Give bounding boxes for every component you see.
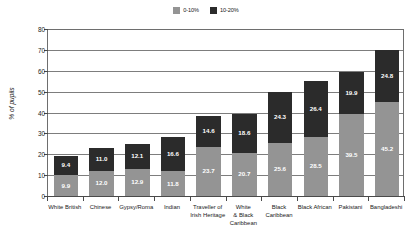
y-tick-label: 40 xyxy=(38,109,45,116)
bar-value-label: 20.7 xyxy=(238,171,250,177)
stacked-bar-chart: 0-10% 10-20% % of pupils 010203040506070… xyxy=(0,0,412,248)
bar-value-label: 23.7 xyxy=(203,168,215,174)
y-tick-label: 50 xyxy=(38,88,45,95)
bar-segment-high: 19.9 xyxy=(339,72,364,114)
y-tick-label: 10 xyxy=(38,172,45,179)
bar-value-label: 9.4 xyxy=(62,162,71,168)
bar-series-container: 9.99.412.011.012.912.111.816.623.714.620… xyxy=(48,29,403,196)
bar-value-label: 26.4 xyxy=(310,106,322,112)
chart-legend: 0-10% 10-20% xyxy=(0,7,412,14)
bar-group: 45.224.8 xyxy=(375,50,400,196)
bar-segment-low: 25.6 xyxy=(268,143,293,196)
bar-segment-low: 9.9 xyxy=(54,175,79,196)
bar-segment-high: 9.4 xyxy=(54,156,79,176)
bar-segment-high: 14.6 xyxy=(196,116,221,146)
bar-segment-high: 24.8 xyxy=(375,50,400,102)
bar-value-label: 11.8 xyxy=(167,181,179,187)
bar-value-label: 24.3 xyxy=(274,114,286,120)
y-tick-label: 80 xyxy=(38,26,45,33)
bar-group: 25.624.3 xyxy=(268,92,293,196)
y-tick-label: 20 xyxy=(38,151,45,158)
bar-value-label: 18.6 xyxy=(238,130,250,136)
legend-item-high: 10-20% xyxy=(210,7,239,14)
x-tick-mark xyxy=(261,196,262,201)
bar-segment-low: 12.0 xyxy=(89,171,114,196)
x-tick-mark xyxy=(47,196,48,201)
y-tick-label: 30 xyxy=(38,130,45,137)
bar-value-label: 25.6 xyxy=(274,166,286,172)
bar-value-label: 12.9 xyxy=(131,179,143,185)
bar-value-label: 16.6 xyxy=(167,151,179,157)
y-axis-title: % of pupils xyxy=(8,69,15,139)
bar-segment-high: 26.4 xyxy=(304,81,329,136)
bar-value-label: 28.5 xyxy=(310,163,322,169)
legend-item-low: 0-10% xyxy=(173,7,199,14)
legend-label-low: 0-10% xyxy=(183,8,199,14)
bar-group: 39.519.9 xyxy=(339,72,364,196)
x-tick-mark xyxy=(297,196,298,201)
bar-group: 12.011.0 xyxy=(89,148,114,196)
bar-value-label: 24.8 xyxy=(381,73,393,79)
bar-group: 23.714.6 xyxy=(196,116,221,196)
x-tick-mark xyxy=(226,196,227,201)
bar-value-label: 19.9 xyxy=(345,90,357,96)
legend-label-high: 10-20% xyxy=(220,8,239,14)
bar-group: 9.99.4 xyxy=(54,156,79,196)
x-tick-mark xyxy=(333,196,334,201)
y-tick-label: 0 xyxy=(41,193,45,200)
bar-value-label: 45.2 xyxy=(381,146,393,152)
plot-area: 01020304050607080 9.99.412.011.012.912.1… xyxy=(47,29,404,196)
bar-segment-low: 45.2 xyxy=(375,102,400,196)
bar-value-label: 11.0 xyxy=(96,156,108,162)
bar-value-label: 14.6 xyxy=(203,128,215,134)
bar-group: 11.816.6 xyxy=(161,137,186,196)
x-tick-mark xyxy=(368,196,369,201)
bar-segment-high: 11.0 xyxy=(89,148,114,171)
legend-swatch-high xyxy=(210,7,217,14)
y-tick-label: 70 xyxy=(38,46,45,53)
bar-segment-low: 39.5 xyxy=(339,114,364,196)
bar-group: 12.912.1 xyxy=(125,144,150,196)
bar-group: 28.526.4 xyxy=(304,81,329,196)
bar-value-label: 12.1 xyxy=(131,153,143,159)
x-tick-mark xyxy=(190,196,191,201)
legend-swatch-low xyxy=(173,7,180,14)
x-tick-mark xyxy=(83,196,84,201)
bar-segment-low: 12.9 xyxy=(125,169,150,196)
bar-group: 20.718.6 xyxy=(232,114,257,196)
x-category-label: Bangladeshi xyxy=(360,204,412,212)
bar-value-label: 9.9 xyxy=(62,183,71,189)
bar-segment-high: 12.1 xyxy=(125,144,150,169)
x-tick-mark xyxy=(154,196,155,201)
bar-value-label: 12.0 xyxy=(96,180,108,186)
bar-segment-high: 24.3 xyxy=(268,92,293,143)
bar-segment-high: 18.6 xyxy=(232,114,257,153)
bar-segment-low: 20.7 xyxy=(232,153,257,196)
bar-segment-low: 23.7 xyxy=(196,147,221,196)
x-tick-mark xyxy=(118,196,119,201)
bar-segment-low: 11.8 xyxy=(161,171,186,196)
bar-segment-low: 28.5 xyxy=(304,137,329,196)
bar-value-label: 39.5 xyxy=(345,152,357,158)
y-tick-label: 60 xyxy=(38,67,45,74)
x-tick-mark xyxy=(404,196,405,201)
bar-segment-high: 16.6 xyxy=(161,137,186,172)
